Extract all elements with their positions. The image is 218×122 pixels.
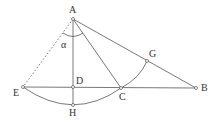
point-E <box>22 86 25 89</box>
segment-AB <box>73 19 196 88</box>
point-B <box>195 87 198 90</box>
segment-EB <box>23 87 196 88</box>
label-B: B <box>201 83 208 93</box>
label-G: G <box>149 49 156 59</box>
diagram-canvas <box>0 0 218 122</box>
label-H: H <box>69 108 76 118</box>
label-A: A <box>69 5 76 15</box>
point-G <box>146 60 149 63</box>
point-C <box>120 87 123 90</box>
geometry-diagram: A E D H C G B α <box>0 0 218 122</box>
point-D <box>72 86 75 89</box>
arc-CG <box>121 61 147 88</box>
label-alpha: α <box>61 40 66 50</box>
arc-EHC <box>23 87 121 105</box>
label-D: D <box>76 76 83 86</box>
label-E: E <box>13 88 19 98</box>
point-A <box>72 18 75 21</box>
segment-AE-dashed <box>23 19 73 87</box>
label-C: C <box>119 92 126 102</box>
